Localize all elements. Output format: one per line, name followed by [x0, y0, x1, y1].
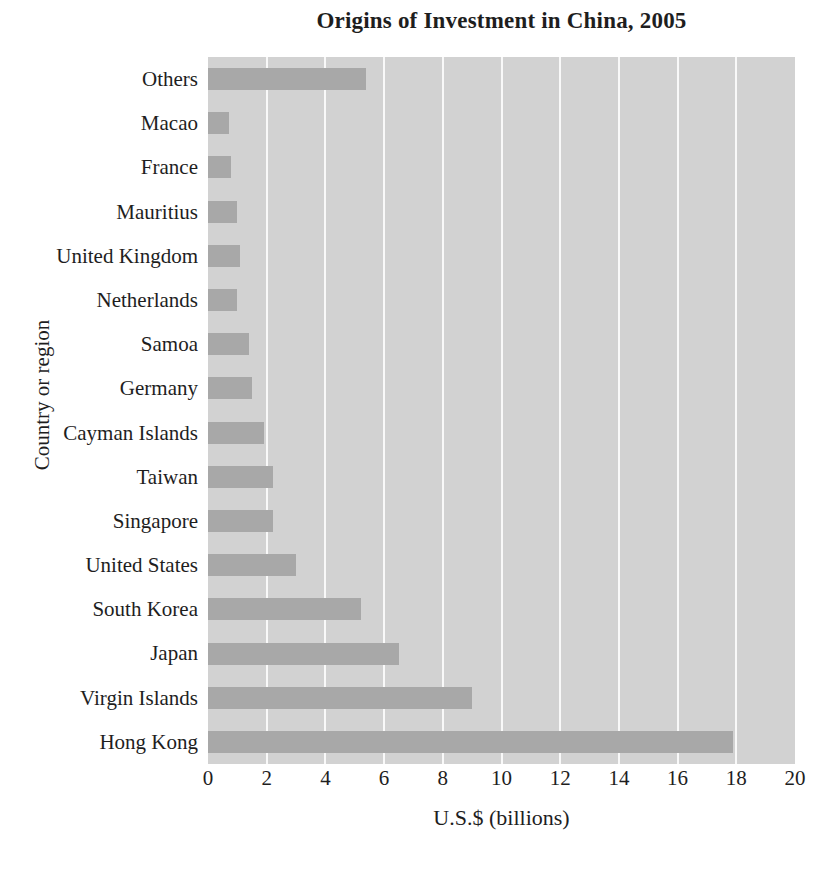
category-label-cayman-islands: Cayman Islands	[0, 411, 198, 455]
category-label-france: France	[0, 145, 198, 189]
category-label-taiwan: Taiwan	[0, 455, 198, 499]
category-label-virgin-islands: Virgin Islands	[0, 676, 198, 720]
bar-japan	[208, 643, 399, 665]
bar-france	[208, 156, 231, 178]
category-label-united-kingdom: United Kingdom	[0, 234, 198, 278]
gridline-14	[618, 57, 620, 764]
bar-virgin-islands	[208, 687, 472, 709]
bar-mauritius	[208, 201, 237, 223]
chart-figure: Origins of Investment in China, 2005 Cou…	[0, 0, 836, 880]
plot-area	[208, 57, 795, 764]
x-axis-label: U.S.$ (billions)	[208, 805, 795, 831]
category-label-south-korea: South Korea	[0, 587, 198, 631]
bar-hong-kong	[208, 731, 733, 753]
bar-samoa	[208, 333, 249, 355]
bar-netherlands	[208, 289, 237, 311]
gridline-16	[677, 57, 679, 764]
bar-united-states	[208, 554, 296, 576]
chart-title: Origins of Investment in China, 2005	[208, 8, 795, 34]
x-axis-ticks: 02468101214161820	[0, 766, 836, 792]
x-tick-label-20: 20	[755, 766, 835, 791]
category-label-germany: Germany	[0, 366, 198, 410]
bar-taiwan	[208, 466, 273, 488]
category-label-united-states: United States	[0, 543, 198, 587]
bar-germany	[208, 377, 252, 399]
bar-south-korea	[208, 598, 361, 620]
bar-united-kingdom	[208, 245, 240, 267]
bar-macao	[208, 112, 229, 134]
category-label-netherlands: Netherlands	[0, 278, 198, 322]
category-label-mauritius: Mauritius	[0, 190, 198, 234]
category-label-japan: Japan	[0, 631, 198, 675]
category-labels: OthersMacaoFranceMauritiusUnited Kingdom…	[0, 57, 198, 764]
gridline-10	[501, 57, 503, 764]
gridline-8	[442, 57, 444, 764]
category-label-singapore: Singapore	[0, 499, 198, 543]
category-label-others: Others	[0, 57, 198, 101]
gridline-12	[559, 57, 561, 764]
gridline-18	[735, 57, 737, 764]
category-label-samoa: Samoa	[0, 322, 198, 366]
bar-cayman-islands	[208, 422, 264, 444]
bar-singapore	[208, 510, 273, 532]
category-label-macao: Macao	[0, 101, 198, 145]
category-label-hong-kong: Hong Kong	[0, 720, 198, 764]
bar-others	[208, 68, 366, 90]
